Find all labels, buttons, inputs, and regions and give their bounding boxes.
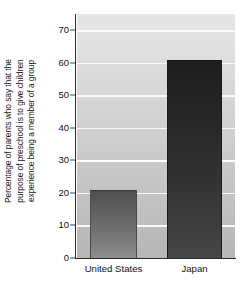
y-tick-label-30: 30 [58,156,69,166]
y-tick-label-40: 40 [58,123,69,133]
x-tick-label-japan: Japan [181,263,207,275]
y-tick-label-50: 50 [58,90,69,100]
y-tick-label-0: 0 [64,253,69,263]
bar-japan [167,60,222,258]
x-axis-tick-labels: United States Japan [77,263,235,279]
y-axis-title-text: Percentage of parents who say that the p… [3,2,38,260]
x-tick-label-united-states: United States [85,263,143,275]
plot-area [77,14,235,258]
x-axis-line [75,258,236,259]
gridline-70 [77,30,235,32]
y-tick-label-20: 20 [58,188,69,198]
y-axis-title-line-2: purpose of preschool is to give children [14,2,26,260]
y-axis-title-line-1: Percentage of parents who say that the [3,2,15,260]
y-tick-label-60: 60 [58,58,69,68]
y-tick-label-70: 70 [58,25,69,35]
y-tick-label-10: 10 [58,221,69,231]
bar-united-states [90,190,137,258]
y-axis-title-line-3: experience being a member of a group [26,2,38,260]
y-axis-tick-labels: 0 10 20 30 40 50 60 70 [41,0,69,290]
bar-chart-figure: Percentage of parents who say that the p… [0,0,243,290]
y-axis-title: Percentage of parents who say that the p… [0,0,40,262]
